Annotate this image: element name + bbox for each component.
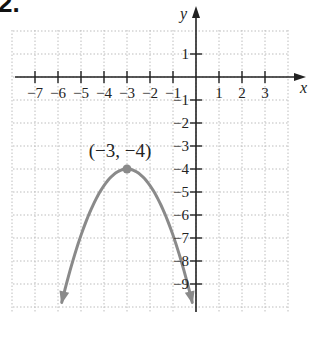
y-tick-label: −2	[173, 115, 189, 131]
axes	[15, 6, 306, 312]
y-tick-label: −4	[173, 161, 189, 177]
vertex-point	[123, 165, 132, 174]
y-axis-label: y	[178, 5, 188, 23]
x-tick-label: −3	[119, 85, 135, 101]
y-tick-label: −1	[173, 92, 189, 108]
x-axis-label: x	[299, 79, 307, 96]
x-tick-label: −2	[142, 85, 158, 101]
y-axis-arrow-icon	[192, 6, 200, 18]
y-tick-label: 1	[182, 46, 190, 62]
y-tick-label: −3	[173, 138, 189, 154]
y-tick-label: −8	[173, 253, 189, 269]
x-tick-label: 2	[238, 85, 246, 101]
vertex-label: (−3, −4)	[89, 140, 152, 162]
x-tick-label: 1	[215, 85, 223, 101]
x-tick-label: −5	[73, 85, 89, 101]
x-tick-label: −4	[96, 85, 112, 101]
x-tick-label: −6	[50, 85, 66, 101]
y-tick-label: −7	[173, 230, 189, 246]
y-tick-label: −5	[173, 184, 189, 200]
x-tick-label: −7	[27, 85, 43, 101]
parabola-graph: xy−7−6−5−4−3−2−11231−1−2−3−4−5−6−7−8−9(−…	[0, 0, 316, 340]
y-tick-label: −6	[173, 207, 189, 223]
x-tick-label: 3	[261, 85, 269, 101]
y-tick-label: −9	[173, 276, 189, 292]
